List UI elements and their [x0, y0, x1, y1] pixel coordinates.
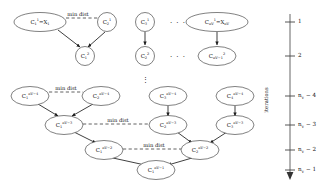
mindist-label-4: min dist: [143, 142, 165, 148]
iterations-axis: 1 2 nV − 4 nV − 3 nV − 2 nV − 1 iteratio…: [263, 14, 316, 180]
node-c4-iternv4[interactable]: C4nV−4: [216, 87, 254, 106]
node-c1-iternv3[interactable]: C1nV−3: [45, 116, 83, 135]
axis-arrow-head: [287, 172, 294, 180]
node-cnv-iter1[interactable]: CnV1=XnV: [186, 13, 248, 32]
edge-n8-n12: [38, 104, 58, 116]
figure-canvas: C11=X1 C21 C31 CnV1=XnV: [0, 0, 326, 184]
node-c3-iter1[interactable]: C31: [136, 13, 155, 32]
mindist-label-1: min dist: [67, 11, 89, 17]
edge-n15-n17: [113, 158, 145, 165]
horizontal-dots-row1: · · ·: [170, 19, 186, 27]
axis-tick-label-4: nV − 3: [298, 121, 316, 128]
node-c2-iternv2[interactable]: C2nV−2: [181, 141, 219, 160]
node-c2-iter1[interactable]: C21: [98, 13, 117, 32]
node-c2-iter2[interactable]: C22: [136, 47, 155, 66]
node-c1-iternv2[interactable]: C1nV−2: [85, 141, 123, 160]
node-c1-iter2[interactable]: C12: [76, 47, 95, 66]
node-c1-iternv1[interactable]: C1nV−1: [137, 161, 175, 180]
mindist-label-2: min dist: [55, 85, 77, 91]
axis-tick-label-2: 2: [298, 52, 302, 58]
axis-title-iterations: iterations: [263, 87, 269, 113]
edge-n1-n5: [58, 30, 80, 47]
edge-n14-n16: [210, 132, 227, 143]
svg-text:C11=X1: C11=X1: [30, 18, 49, 26]
node-c2-iternv4[interactable]: C2nV−4: [82, 87, 120, 106]
axis-tick-label-1: 1: [298, 18, 302, 24]
node-cnv1-iter2[interactable]: CnV−12: [198, 47, 236, 66]
nodes-layer: C11=X1 C21 C31 CnV1=XnV: [11, 13, 254, 180]
edge-n13-n16: [177, 132, 192, 143]
node-c3-iternv4[interactable]: C3nV−4: [149, 87, 187, 106]
edge-n2-n5: [88, 32, 105, 47]
vertical-dots: ⋮: [142, 76, 149, 84]
node-c3-iternv3[interactable]: C3nV−3: [216, 116, 254, 135]
node-c1-iter1[interactable]: C11=X1: [14, 13, 66, 32]
edge-n16-n17: [168, 158, 192, 165]
axis-tick-label-5: nV − 2: [298, 146, 316, 153]
node-c2-iternv3[interactable]: C2nV−3: [149, 116, 187, 135]
horizontal-dots-row2: · · ·: [170, 53, 186, 61]
axis-tick-label-6: nV − 1: [298, 166, 316, 173]
axis-tick-label-3: nV − 4: [298, 92, 316, 99]
mindist-label-3: min dist: [107, 117, 129, 123]
diagram-svg: C11=X1 C21 C31 CnV1=XnV: [0, 0, 326, 184]
node-c1-iternv4[interactable]: C1nV−4: [11, 87, 49, 106]
edge-n9-n12: [72, 104, 93, 116]
edge-n12-n15: [74, 132, 96, 143]
